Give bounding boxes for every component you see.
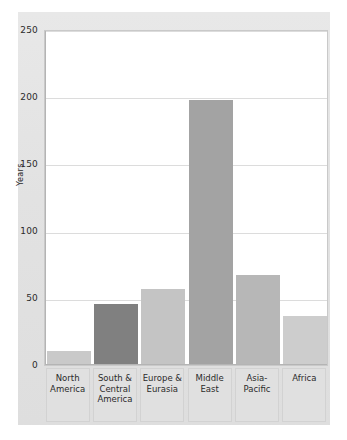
x-axis-line bbox=[45, 364, 327, 365]
category-cell-north-america: North America bbox=[46, 368, 90, 422]
gridline-150 bbox=[45, 165, 327, 166]
bar-north-america[interactable] bbox=[47, 351, 91, 364]
bar-asia-pacific[interactable] bbox=[236, 275, 280, 365]
category-label-africa: Africa bbox=[292, 373, 316, 384]
y-axis-tick-labels: 250 200 150 100 50 0 bbox=[0, 0, 44, 440]
category-cell-asia-pacific: Asia- Pacific bbox=[235, 368, 279, 422]
y-tick-50: 50 bbox=[0, 293, 38, 303]
bar-africa[interactable] bbox=[283, 316, 327, 364]
category-cell-south-central-america: South & Central America bbox=[93, 368, 137, 422]
y-tick-200: 200 bbox=[0, 92, 38, 102]
y-tick-250: 250 bbox=[0, 25, 38, 35]
category-label-middle-east: Middle East bbox=[196, 373, 224, 394]
y-tick-0: 0 bbox=[0, 360, 38, 370]
category-cell-europe-eurasia: Europe & Eurasia bbox=[140, 368, 184, 422]
category-label-europe-eurasia: Europe & Eurasia bbox=[143, 373, 182, 394]
gridline-100 bbox=[45, 233, 327, 234]
y-axis-line bbox=[45, 31, 46, 365]
bar-chart-figure: 250 200 150 100 50 0 Years North America… bbox=[0, 0, 347, 440]
category-label-south-central-america: South & Central America bbox=[97, 373, 132, 405]
category-cell-middle-east: Middle East bbox=[188, 368, 232, 422]
y-axis-title: Years bbox=[16, 163, 25, 186]
gridline-200 bbox=[45, 98, 327, 99]
bar-europe-eurasia[interactable] bbox=[141, 289, 185, 364]
bar-middle-east[interactable] bbox=[189, 100, 233, 365]
category-label-asia-pacific: Asia- Pacific bbox=[243, 373, 270, 394]
gridline-50 bbox=[45, 300, 327, 301]
gridline-250 bbox=[45, 31, 327, 32]
category-cell-africa: Africa bbox=[282, 368, 326, 422]
bar-south-central-america[interactable] bbox=[94, 304, 138, 364]
category-label-north-america: North America bbox=[50, 373, 85, 394]
y-tick-100: 100 bbox=[0, 226, 38, 236]
x-axis-category-labels: North America South & Central America Eu… bbox=[44, 368, 328, 422]
plot-area bbox=[44, 30, 328, 366]
